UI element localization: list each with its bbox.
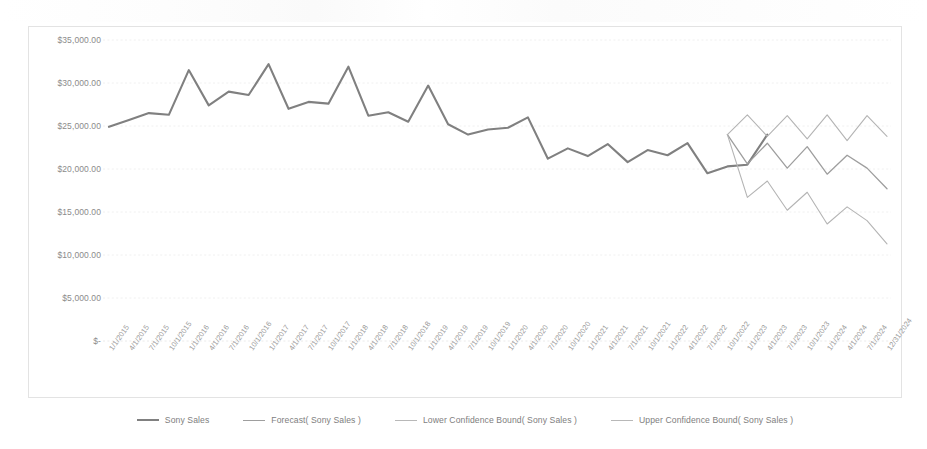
x-axis-tick-label: 12/31/2024	[885, 316, 914, 352]
x-axis-tick-labels: 1/1/20154/1/20157/1/201510/1/20151/1/201…	[29, 27, 903, 399]
legend-line-icon	[395, 420, 417, 421]
legend-item[interactable]: Lower Confidence Bound( Sony Sales )	[395, 415, 577, 425]
legend-label: Sony Sales	[165, 415, 209, 425]
chart-legend: Sony SalesForecast( Sony Sales )Lower Co…	[28, 409, 902, 431]
legend-line-icon	[137, 419, 159, 421]
scan-artifact-strip	[0, 0, 927, 22]
legend-item[interactable]: Upper Confidence Bound( Sony Sales )	[611, 415, 793, 425]
forecast-chart: $35,000.00$30,000.00$25,000.00$20,000.00…	[28, 26, 902, 398]
legend-line-icon	[611, 420, 633, 421]
legend-line-icon	[243, 420, 265, 421]
legend-item[interactable]: Sony Sales	[137, 415, 209, 425]
legend-item[interactable]: Forecast( Sony Sales )	[243, 415, 361, 425]
legend-label: Lower Confidence Bound( Sony Sales )	[423, 415, 577, 425]
legend-label: Upper Confidence Bound( Sony Sales )	[639, 415, 793, 425]
legend-label: Forecast( Sony Sales )	[271, 415, 361, 425]
